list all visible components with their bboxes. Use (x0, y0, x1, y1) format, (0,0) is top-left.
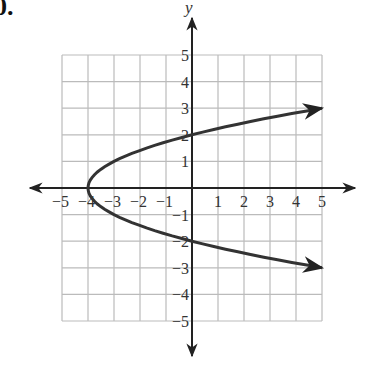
y-tick-label: −4 (172, 286, 189, 303)
x-tick-label: −5 (52, 193, 69, 210)
y-tick-label: −5 (172, 313, 189, 330)
y-tick-label: 4 (181, 74, 189, 91)
x-tick-label: −2 (130, 193, 147, 210)
x-tick-label: 2 (240, 193, 248, 210)
x-tick-label: 1 (214, 193, 222, 210)
x-tick-label: 3 (266, 193, 274, 210)
y-tick-label: 5 (181, 47, 189, 64)
y-axis-label: y (183, 0, 193, 17)
y-tick-label: 1 (181, 153, 189, 170)
x-tick-label: −1 (156, 193, 173, 210)
x-tick-label: 4 (292, 193, 300, 210)
coordinate-plane: y −5−4−3−2−112345 54321−1−2−3−4−5 (0, 0, 365, 366)
y-tick-label: −3 (172, 260, 189, 277)
x-tick-label: −3 (104, 193, 121, 210)
y-tick-label: −1 (172, 207, 189, 224)
y-tick-label: 3 (181, 100, 189, 117)
x-tick-label: −4 (78, 193, 95, 210)
x-tick-label: 5 (318, 193, 326, 210)
